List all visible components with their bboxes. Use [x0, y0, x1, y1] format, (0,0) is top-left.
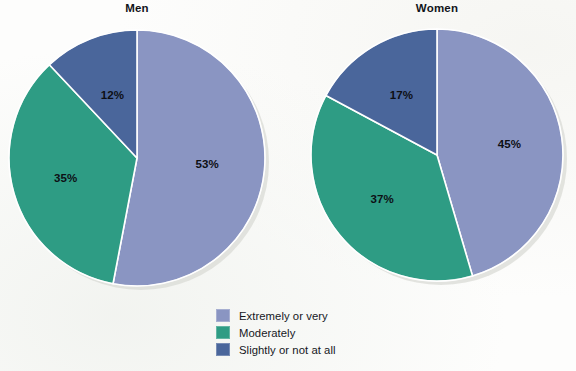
legend-item-slightly-or-not-at-all: Slightly or not at all [216, 341, 446, 358]
pie-svg-women: 45%37%17% [309, 27, 567, 285]
chart-title-women: Women [397, 2, 477, 14]
pie-slice-label: 17% [390, 89, 413, 101]
chart-title-men: Men [97, 2, 177, 14]
pie-chart-men: 53%35%12% [7, 28, 267, 290]
legend-label-extremely-or-very: Extremely or very [239, 310, 328, 322]
pie-slice-label: 35% [54, 172, 77, 184]
pie-slice-label: 45% [498, 138, 521, 150]
pie-slice-label: 37% [371, 193, 394, 205]
pie-slice-label: 53% [195, 158, 218, 170]
legend-label-moderately: Moderately [239, 327, 295, 339]
pie-chart-figure: Men 53%35%12% Women 45%37%17% Extremely … [0, 0, 576, 371]
legend-label-slightly-or-not-at-all: Slightly or not at all [239, 344, 336, 356]
legend-item-extremely-or-very: Extremely or very [216, 307, 446, 324]
pie-svg-men: 53%35%12% [7, 28, 267, 290]
pie-chart-women: 45%37%17% [309, 27, 567, 285]
legend-swatch-slightly-or-not-at-all [216, 343, 230, 356]
pie-slices-men [9, 30, 265, 286]
legend: Extremely or very Moderately Slightly or… [216, 307, 446, 358]
pie-slices-women [311, 29, 563, 281]
legend-item-moderately: Moderately [216, 324, 446, 341]
pie-slice-label: 12% [101, 89, 124, 101]
legend-swatch-moderately [216, 326, 230, 339]
legend-swatch-extremely-or-very [216, 309, 230, 322]
